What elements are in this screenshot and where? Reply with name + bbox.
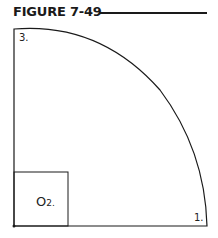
label-center: O2. [36,194,55,209]
label-point-1: 1. [194,212,204,223]
quarter-circle-diagram [0,0,218,238]
label-point-3: 3. [19,32,29,43]
center-letter: O [36,194,46,209]
center-subscript: 2. [46,198,55,208]
corner-dot [13,225,16,228]
